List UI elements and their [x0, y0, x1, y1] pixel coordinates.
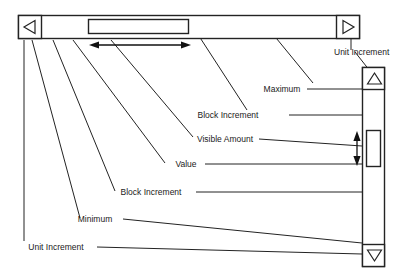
- label-unit-increment-bottom: Unit Increment: [28, 242, 84, 252]
- diagram-canvas: Unit Increment Maximum Block Increment V…: [0, 0, 417, 274]
- leader-block-increment-lower: [53, 40, 115, 191]
- label-block-increment-upper: Block Increment: [198, 110, 260, 120]
- leader-maximum: [272, 33, 313, 83]
- leader-value: [73, 40, 165, 163]
- label-block-increment-lower: Block Increment: [121, 187, 183, 197]
- leader-visible-amount: [111, 40, 193, 137]
- double-headed-horizontal-arrow: [89, 41, 191, 48]
- leader-tail-unit-increment-bottom: [97, 247, 362, 254]
- horizontal-scrollbar-thumb[interactable]: [89, 20, 189, 34]
- horizontal-scrollbar[interactable]: [19, 16, 360, 39]
- leader-tails: [97, 52, 372, 254]
- leader-tail-minimum: [123, 219, 362, 243]
- double-headed-vertical-arrow: [353, 131, 360, 166]
- scrollbar-anatomy-diagram: Unit Increment Maximum Block Increment V…: [0, 0, 417, 274]
- leader-tail-visible-amount: [259, 139, 362, 146]
- label-visible-amount: Visible Amount: [197, 134, 254, 144]
- label-unit-increment-top: Unit Increment: [334, 47, 390, 57]
- vertical-scrollbar[interactable]: [363, 68, 385, 267]
- leader-block-increment-upper: [197, 33, 247, 110]
- label-maximum: Maximum: [264, 84, 301, 94]
- leader-lines: [24, 33, 351, 241]
- vertical-scrollbar-thumb[interactable]: [367, 131, 381, 167]
- callout-labels: Unit Increment Maximum Block Increment V…: [28, 47, 390, 252]
- label-minimum: Minimum: [78, 214, 112, 224]
- leader-minimum: [32, 40, 80, 218]
- label-value: Value: [175, 159, 196, 169]
